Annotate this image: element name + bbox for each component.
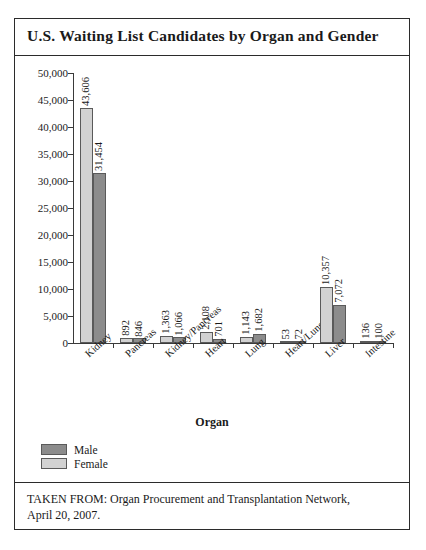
bar-group: 2,108701 <box>200 73 226 343</box>
source-line-1: TAKEN FROM: Organ Procurement and Transp… <box>27 491 397 507</box>
bar-male <box>200 332 213 343</box>
y-axis-tick-label: 20,000 <box>38 229 68 241</box>
bar-group: 43,60631,454 <box>80 73 106 343</box>
legend-swatch-male-icon <box>41 444 67 455</box>
y-axis-tick <box>68 289 73 290</box>
y-axis-tick <box>68 262 73 263</box>
bar-value-label: 1,682 <box>254 308 265 332</box>
x-axis-tick <box>273 343 274 348</box>
x-axis-tick <box>113 343 114 348</box>
bar-group: 892846 <box>120 73 146 343</box>
legend-label-female: Female <box>74 458 108 470</box>
y-axis-tick <box>68 343 73 344</box>
y-axis-tick <box>68 127 73 128</box>
bar-male <box>80 108 93 343</box>
y-axis-tick-label: 40,000 <box>38 121 68 133</box>
bar-female <box>93 173 106 343</box>
bar-value-label: 1,363 <box>161 310 172 334</box>
chart-axis-area: 43,60631,454Kidney892846Pancreas1,3631,0… <box>73 73 393 343</box>
bar-value-label: 136 <box>361 323 372 339</box>
y-axis-tick-label: 50,000 <box>38 67 68 79</box>
legend-swatch-female-icon <box>41 458 67 469</box>
y-axis-tick-label: 25,000 <box>38 202 68 214</box>
y-axis-labels: 05,00010,00015,00020,00025,00030,00035,0… <box>15 73 68 343</box>
chart-legend: Male Female <box>41 443 108 471</box>
figure-panel: U.S. Waiting List Candidates by Organ an… <box>14 18 410 530</box>
y-axis-tick-label: 5,000 <box>43 310 68 322</box>
legend-item-female: Female <box>41 457 108 470</box>
bar-male <box>320 287 333 343</box>
bar-group: 1,1431,682 <box>240 73 266 343</box>
title-divider <box>15 55 409 56</box>
bar-value-label: 1,143 <box>241 311 252 335</box>
y-axis-tick-label: 35,000 <box>38 148 68 160</box>
chart-plot: 05,00010,00015,00020,00025,00030,00035,0… <box>15 59 409 364</box>
y-axis-tick <box>68 316 73 317</box>
y-axis-tick-label: 15,000 <box>38 256 68 268</box>
source-divider <box>15 482 409 483</box>
bar-value-label: 2,108 <box>201 306 212 330</box>
page-title: U.S. Waiting List Candidates by Organ an… <box>27 27 399 45</box>
y-axis-tick <box>68 100 73 101</box>
y-axis-tick <box>68 208 73 209</box>
y-axis-tick-label: 10,000 <box>38 283 68 295</box>
x-axis-tick <box>393 343 394 348</box>
bar-group: 5372 <box>280 73 306 343</box>
bar-value-label: 31,454 <box>94 142 105 171</box>
bar-value-label: 43,606 <box>81 77 92 106</box>
x-axis-tick <box>233 343 234 348</box>
x-axis-tick <box>313 343 314 348</box>
x-axis-tick <box>353 343 354 348</box>
y-axis-tick <box>68 235 73 236</box>
bar-group: 10,3577,072 <box>320 73 346 343</box>
bar-group: 1,3631,066 <box>160 73 186 343</box>
y-axis-tick-label: 30,000 <box>38 175 68 187</box>
x-axis-title: Organ <box>15 415 409 430</box>
y-axis-tick <box>68 73 73 74</box>
source-line-2: April 20, 2007. <box>27 507 397 523</box>
bar-value-label: 53 <box>281 329 292 340</box>
bar-value-label: 892 <box>121 320 132 336</box>
y-axis-tick <box>68 181 73 182</box>
x-axis-tick <box>153 343 154 348</box>
bar-value-label: 7,072 <box>334 279 345 303</box>
y-axis-tick <box>68 154 73 155</box>
y-axis-tick-label: 45,000 <box>38 94 68 106</box>
y-axis-line <box>73 73 74 343</box>
bar-value-label: 10,357 <box>321 256 332 285</box>
bar-group: 136100 <box>360 73 386 343</box>
legend-label-male: Male <box>74 444 98 456</box>
source-note: TAKEN FROM: Organ Procurement and Transp… <box>27 491 397 523</box>
x-axis-tick <box>193 343 194 348</box>
legend-item-male: Male <box>41 443 108 456</box>
